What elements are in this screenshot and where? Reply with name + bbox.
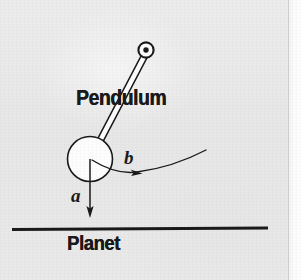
planet-surface-line: [12, 228, 268, 230]
vector-b-label: b: [124, 147, 134, 169]
planet-label: Planet: [67, 231, 120, 255]
pivot-icon: [138, 42, 153, 57]
vector-a-label: a: [71, 185, 81, 207]
figure-canvas: Pendulum Planet a b: [0, 0, 302, 280]
pendulum-diagram: [0, 0, 302, 280]
pendulum-label: Pendulum: [76, 85, 166, 111]
